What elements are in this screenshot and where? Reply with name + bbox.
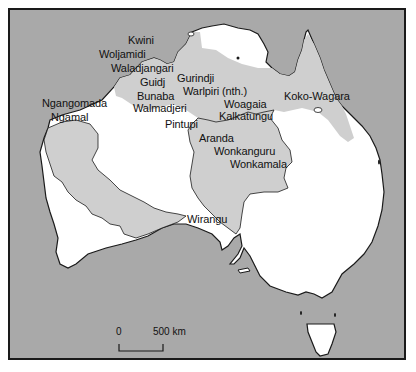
island-north: [237, 57, 240, 60]
label-aranda: Aranda: [199, 132, 234, 144]
label-guidj: Guidj: [140, 76, 165, 88]
label-woagaia: Woagaia: [224, 98, 267, 110]
label-koko-wagara: Koko-Wagara: [284, 90, 350, 102]
label-kalkatungu: Kalkatungu: [219, 110, 273, 122]
label-warlpiri-nth: Warlpiri (nth.): [183, 85, 247, 97]
label-bunaba: Bunaba: [137, 90, 174, 102]
label-kwini: Kwini: [128, 34, 154, 46]
label-ngangomada: Ngangomada: [42, 97, 107, 109]
scale-bar: [119, 344, 163, 351]
scale-end-label: 500 km: [153, 326, 186, 337]
island-bass-strait-east: [334, 313, 336, 317]
label-waladjangari: Waladjangari: [111, 62, 174, 74]
island-nw: [188, 32, 194, 36]
label-pintupi: Pintupi: [165, 118, 198, 130]
label-wirangu: Wirangu: [187, 213, 227, 225]
label-ngamal: Ngamal: [51, 111, 88, 123]
label-walmadjeri: Walmadjeri: [133, 102, 187, 114]
australia-map: [10, 10, 406, 360]
tasmania: [307, 324, 336, 356]
kangaroo-island: [238, 268, 250, 273]
map-frame: Kwini Woljamidi Waladjangari Guidj Gurin…: [8, 8, 406, 360]
label-wonkanguru: Wonkanguru: [214, 145, 275, 157]
scale-start-label: 0: [116, 326, 122, 337]
label-gurindji: Gurindji: [177, 72, 214, 84]
label-woljamidi: Woljamidi: [99, 48, 146, 60]
island-bass-strait-west: [300, 311, 302, 315]
lake: [314, 108, 322, 113]
island-qld-coast: [378, 160, 380, 165]
label-wonkamala: Wonkamala: [230, 158, 287, 170]
